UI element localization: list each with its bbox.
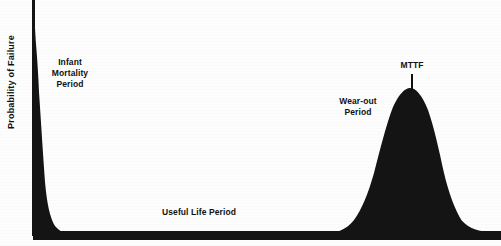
mttf-pointer-line [411,74,413,93]
infant-mortality-area [33,0,72,234]
infant-mortality-label: Infant Mortality Period [44,57,96,90]
infant-mortality-label-line2: Mortality [44,68,96,79]
useful-life-period-label: Useful Life Period [162,207,236,218]
mttf-label: MTTF [392,60,432,71]
wearout-period-label-line1: Wear-out [330,96,386,107]
wearout-period-label-line2: Period [330,107,386,118]
infant-mortality-label-line1: Infant [44,57,96,68]
wearout-period-label: Wear-out Period [330,96,386,118]
wearout-right-tail [462,221,501,240]
y-axis-line [32,0,35,236]
bathtub-curve-plot [0,0,501,246]
y-axis-title: Probability of Failure [6,17,16,147]
bathtub-curve-figure: Probability of Failure Infant Mortality … [0,0,501,246]
infant-mortality-label-line3: Period [44,79,96,90]
